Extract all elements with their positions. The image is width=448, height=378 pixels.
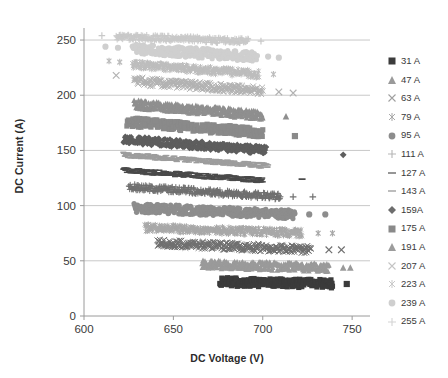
legend-label: 95 A <box>401 126 420 145</box>
data-point <box>152 118 158 124</box>
legend-item[interactable]: 63 A <box>386 89 448 108</box>
circle-marker-icon <box>386 130 398 142</box>
asterisk-marker-icon <box>386 111 398 123</box>
legend-label: 255 A <box>401 312 425 331</box>
data-point <box>255 53 260 58</box>
y-tick-label: 200 <box>57 89 76 101</box>
data-point <box>340 151 347 158</box>
y-tick-label: 250 <box>57 34 76 46</box>
series-127A <box>120 168 305 182</box>
x-tick-label: 750 <box>343 323 362 335</box>
legend-marker <box>386 204 398 216</box>
legend-marker <box>386 278 398 290</box>
circle-marker-icon <box>386 297 398 309</box>
y-tick-label: 150 <box>57 144 76 156</box>
series-255A <box>99 32 265 46</box>
legend-item[interactable]: 191 A <box>386 238 448 257</box>
series-239A <box>102 42 282 64</box>
legend-item[interactable]: 95 A <box>386 126 448 145</box>
diamond-marker-icon <box>386 204 398 216</box>
data-point <box>102 44 108 50</box>
legend-item[interactable]: 47 A <box>386 71 448 90</box>
data-point <box>290 216 295 221</box>
data-point <box>330 230 335 237</box>
x-axis-title: DC Voltage (V) <box>84 352 370 364</box>
legend-label: 111 A <box>401 145 424 164</box>
series-47A <box>199 258 353 274</box>
legend-item[interactable]: 255 A <box>386 312 448 331</box>
legend-marker <box>386 92 398 104</box>
data-point <box>276 89 283 96</box>
legend-label: 63 A <box>401 89 420 108</box>
legend-marker <box>386 55 398 67</box>
data-point <box>258 38 265 45</box>
x-tick-label: 650 <box>164 323 183 335</box>
dash-marker-icon <box>386 167 398 179</box>
legend-label: 159A <box>401 201 423 220</box>
series-175A <box>124 116 298 140</box>
legend-item[interactable]: 31 A <box>386 52 448 71</box>
legend-item[interactable]: 159A <box>386 201 448 220</box>
data-point <box>310 193 317 200</box>
data-point <box>340 264 347 271</box>
legend-marker <box>386 74 398 86</box>
data-point <box>237 206 242 211</box>
legend-label: 31 A <box>401 52 420 71</box>
scatter-chart: 050100150200250 600650700750 DC Current … <box>0 0 448 378</box>
series-95A <box>131 201 328 221</box>
y-tick-label: 50 <box>63 255 76 267</box>
data-point <box>326 246 333 253</box>
legend-item[interactable]: 239 A <box>386 294 448 313</box>
legend-marker <box>386 148 398 160</box>
triangle-marker-icon <box>386 74 398 86</box>
data-point <box>265 53 271 59</box>
legend-label: 191 A <box>401 238 425 257</box>
data-point <box>290 193 297 200</box>
legend-marker <box>386 241 398 253</box>
data-point <box>107 58 112 65</box>
asterisk-marker-icon <box>386 278 398 290</box>
y-tick-labels: 050100150200250 <box>57 34 76 322</box>
y-tick-label: 0 <box>70 310 76 322</box>
legend-marker <box>386 297 398 309</box>
square-marker-icon <box>386 55 398 67</box>
y-tick-label: 100 <box>57 200 76 212</box>
plus-marker-icon <box>386 148 398 160</box>
legend-item[interactable]: 111 A <box>386 145 448 164</box>
legend-label: 239 A <box>401 294 425 313</box>
legend-label: 127 A <box>401 164 425 183</box>
cross-x-marker-icon <box>386 260 398 272</box>
legend-item[interactable]: 143 A <box>386 182 448 201</box>
legend-item[interactable]: 223 A <box>386 275 448 294</box>
data-series-group <box>99 32 354 291</box>
data-point <box>306 211 312 217</box>
data-point <box>151 43 156 48</box>
legend-label: 175 A <box>401 219 425 238</box>
legend-marker <box>386 316 398 328</box>
series-79A <box>143 221 335 239</box>
legend-item[interactable]: 127 A <box>386 164 448 183</box>
plus-marker-icon <box>386 316 398 328</box>
legend-marker <box>386 260 398 272</box>
data-point <box>330 284 335 289</box>
square-marker-icon <box>386 223 398 235</box>
series-63A <box>154 237 344 256</box>
data-point <box>260 134 265 139</box>
data-point <box>99 32 106 39</box>
legend-label: 47 A <box>401 71 420 90</box>
x-tick-labels: 600650700750 <box>74 323 361 335</box>
legend-item[interactable]: 79 A <box>386 108 448 127</box>
y-axis-title: DC Current (A) <box>13 101 25 211</box>
data-point <box>271 71 276 78</box>
triangle-marker-icon <box>386 241 398 253</box>
series-207A <box>113 72 297 97</box>
data-point <box>276 55 282 61</box>
series-111A <box>126 181 316 202</box>
data-point <box>338 246 345 253</box>
x-tick-label: 700 <box>253 323 272 335</box>
data-point <box>347 264 354 271</box>
legend-item[interactable]: 175 A <box>386 219 448 238</box>
legend-item[interactable]: 207 A <box>386 257 448 276</box>
legend-marker <box>386 185 398 197</box>
data-point <box>260 127 265 132</box>
